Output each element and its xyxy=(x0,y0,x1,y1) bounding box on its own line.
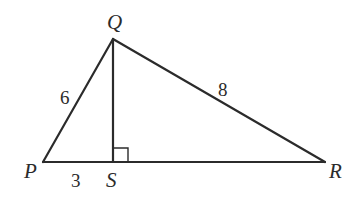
length-label-pq: 6 xyxy=(60,87,70,108)
segment-pq xyxy=(43,39,113,162)
length-label-qr: 8 xyxy=(218,79,228,100)
vertex-label-q: Q xyxy=(107,10,122,34)
vertex-label-r: R xyxy=(328,159,342,183)
vertex-label-p: P xyxy=(23,159,37,183)
length-label-ps: 3 xyxy=(71,170,81,191)
vertex-label-s: S xyxy=(106,168,117,192)
right-angle-marker xyxy=(113,148,128,162)
triangle-diagram: Q P S R 6 8 3 xyxy=(0,0,356,197)
segment-qr xyxy=(113,39,325,162)
